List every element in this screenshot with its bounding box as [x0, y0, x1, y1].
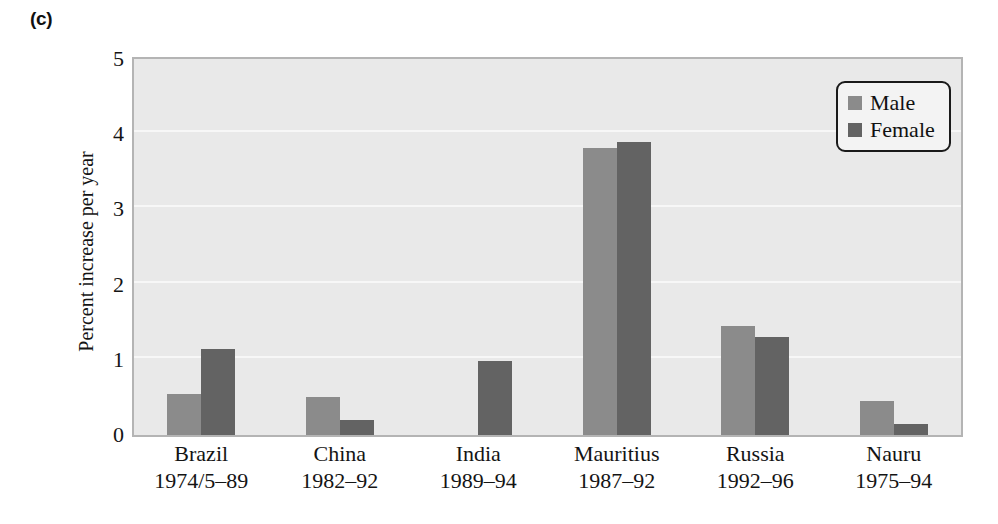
- x-axis-tick-labels: Brazil1974/5–89China1982–92India1989–94M…: [132, 441, 963, 521]
- chart-legend: MaleFemale: [836, 81, 951, 152]
- y-tick-label: 2: [113, 274, 124, 296]
- male-swatch: [848, 96, 862, 110]
- legend-label: Female: [870, 119, 935, 141]
- x-group-period: 1989–94: [409, 468, 548, 495]
- y-tick-label: 4: [113, 123, 124, 145]
- x-group-period: 1982–92: [271, 468, 410, 495]
- gridline: [134, 356, 961, 358]
- x-group-name: Russia: [686, 441, 825, 468]
- x-group-label-china: China1982–92: [271, 441, 410, 495]
- x-group-name: Nauru: [825, 441, 964, 468]
- x-group-name: Brazil: [132, 441, 271, 468]
- y-tick-label: 0: [113, 424, 124, 446]
- x-group-period: 1992–96: [686, 468, 825, 495]
- x-group-label-nauru: Nauru1975–94: [825, 441, 964, 495]
- x-group-label-brazil: Brazil1974/5–89: [132, 441, 271, 495]
- x-group-label-mauritius: Mauritius1987–92: [548, 441, 687, 495]
- y-tick-label: 3: [113, 198, 124, 220]
- x-group-period: 1974/5–89: [132, 468, 271, 495]
- x-group-period: 1987–92: [548, 468, 687, 495]
- x-group-period: 1975–94: [825, 468, 964, 495]
- legend-item-female: Female: [848, 116, 935, 143]
- y-tick-label: 5: [113, 48, 124, 70]
- legend-item-male: Male: [848, 89, 935, 116]
- y-axis-tick-labels: 012345: [88, 57, 124, 437]
- panel-label: (c): [30, 8, 52, 30]
- gridline: [134, 281, 961, 283]
- x-group-label-india: India1989–94: [409, 441, 548, 495]
- female-swatch: [848, 123, 862, 137]
- x-group-label-russia: Russia1992–96: [686, 441, 825, 495]
- x-group-name: China: [271, 441, 410, 468]
- x-group-name: India: [409, 441, 548, 468]
- x-group-name: Mauritius: [548, 441, 687, 468]
- y-tick-label: 1: [113, 349, 124, 371]
- legend-label: Male: [870, 92, 915, 114]
- gridline: [134, 205, 961, 207]
